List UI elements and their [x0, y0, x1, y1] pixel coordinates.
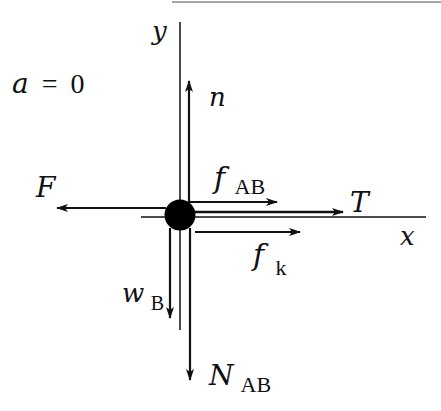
acceleration-label: a = 0 [12, 67, 85, 100]
force-wB-label: w B [122, 278, 164, 314]
force-T-label: T [350, 186, 371, 219]
force-NAB-label: N AB [208, 359, 271, 397]
particle-body [165, 200, 196, 231]
x-axis-label: x [400, 221, 415, 251]
force-fAB-label: f AB [212, 160, 265, 199]
free-body-diagram: a = 0 y x n F f AB T f k w B N AB [0, 0, 441, 411]
force-n-label: n [209, 82, 226, 112]
force-fk-label: f k [251, 237, 287, 280]
force-F-label: F [35, 171, 57, 204]
y-axis-label: y [151, 16, 167, 46]
